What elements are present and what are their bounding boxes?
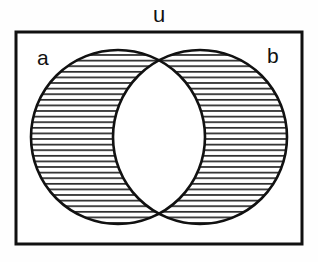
set-a-label: a: [37, 47, 49, 68]
set-b-label: b: [267, 45, 279, 66]
venn-diagram-figure: [0, 0, 318, 262]
universe-label: u: [0, 4, 318, 26]
venn-diagram-canvas: u a b: [0, 0, 318, 262]
